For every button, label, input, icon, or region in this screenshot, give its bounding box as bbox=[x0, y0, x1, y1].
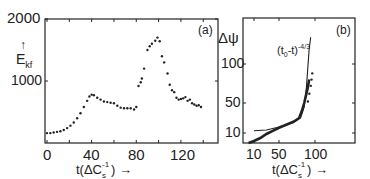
panel-b-ytick-50: 50 bbox=[225, 96, 241, 109]
data-point bbox=[161, 55, 163, 57]
data-point bbox=[198, 104, 200, 106]
panel-b-ytick-10: 10 bbox=[225, 126, 241, 139]
panel-a-frame bbox=[45, 19, 218, 143]
data-point bbox=[180, 98, 182, 100]
panel-a-xtick-0: 0 bbox=[43, 148, 51, 161]
panel-a-ticks bbox=[45, 19, 218, 143]
data-point bbox=[184, 96, 186, 98]
panel-b-annotation-sup: -4/3 bbox=[298, 43, 310, 50]
data-point bbox=[103, 100, 105, 102]
panel-a-y-label: Ekf bbox=[16, 53, 32, 72]
data-point bbox=[307, 100, 309, 102]
data-point bbox=[143, 67, 145, 69]
panel-b-x-label-text: t(ΔC bbox=[272, 162, 298, 177]
data-point bbox=[171, 89, 173, 91]
panel-b-annotation: (t0-t)-4/3 bbox=[277, 40, 310, 61]
data-point bbox=[130, 107, 132, 109]
panel-b-xtick-100: 100 bbox=[304, 148, 327, 161]
panel-b-x-label: t(ΔC-1s) → bbox=[272, 163, 328, 176]
data-point bbox=[148, 45, 150, 47]
data-point bbox=[135, 106, 137, 108]
panel-a-tag: (a) bbox=[198, 24, 213, 37]
data-point bbox=[49, 132, 51, 134]
panel-a-ytick-2000: 2000 bbox=[7, 11, 40, 24]
data-point bbox=[137, 85, 139, 87]
data-point bbox=[119, 106, 121, 108]
data-point bbox=[63, 129, 65, 131]
data-point bbox=[106, 101, 108, 103]
data-point bbox=[177, 98, 179, 100]
data-point bbox=[151, 43, 153, 45]
data-point bbox=[154, 40, 156, 42]
data-point bbox=[52, 131, 54, 133]
panel-a-xtick-120: 120 bbox=[170, 148, 195, 161]
data-point bbox=[133, 108, 135, 110]
data-point bbox=[93, 94, 95, 96]
data-point bbox=[193, 103, 195, 105]
data-point bbox=[88, 95, 90, 97]
data-point bbox=[175, 97, 177, 99]
panel-b-ytick-100: 100 bbox=[221, 57, 244, 70]
data-point bbox=[186, 100, 188, 102]
data-point bbox=[76, 117, 78, 119]
data-point bbox=[83, 106, 85, 108]
data-point bbox=[200, 106, 202, 108]
data-point bbox=[141, 77, 143, 79]
panel-a-y-label-main: E bbox=[16, 51, 25, 67]
data-point bbox=[169, 84, 171, 86]
panel-a-x-label-end: ) → bbox=[111, 162, 132, 177]
data-point bbox=[73, 121, 75, 123]
data-point bbox=[123, 107, 125, 109]
panel-b-y-label: Δψ bbox=[218, 31, 239, 44]
data-point bbox=[311, 72, 313, 74]
panel-b-x-label-sub: s bbox=[298, 169, 302, 179]
panel-a-x-label-sub: s bbox=[102, 169, 106, 179]
panel-a-y-label-sub: kf bbox=[25, 60, 32, 70]
data-point bbox=[59, 130, 61, 132]
panel-a-ytick-1000: 1000 bbox=[11, 74, 42, 87]
data-point bbox=[308, 92, 310, 94]
data-point bbox=[189, 98, 191, 100]
data-point bbox=[195, 105, 197, 107]
data-point bbox=[79, 112, 81, 114]
data-point bbox=[66, 127, 68, 129]
data-point bbox=[99, 98, 101, 100]
data-point bbox=[166, 72, 168, 74]
panel-a-x-label-text: t(ΔC bbox=[76, 162, 102, 177]
panel-a-xtick-40: 40 bbox=[83, 148, 100, 161]
data-point bbox=[156, 36, 158, 38]
data-point bbox=[56, 131, 58, 133]
panel-b-tag: (b) bbox=[336, 24, 351, 37]
panel-b-x-label-end: ) → bbox=[307, 162, 328, 177]
panel-a bbox=[45, 19, 218, 143]
data-point bbox=[109, 102, 111, 104]
data-point bbox=[86, 100, 88, 102]
data-point bbox=[140, 81, 142, 83]
data-point bbox=[90, 93, 92, 95]
data-point bbox=[69, 124, 71, 126]
data-point bbox=[46, 132, 48, 134]
data-point bbox=[191, 102, 193, 104]
data-point bbox=[146, 49, 148, 51]
data-point bbox=[116, 105, 118, 107]
panel-a-x-label: t(ΔC-1s) → bbox=[76, 163, 132, 176]
panel-b-annotation-base: (t bbox=[277, 44, 284, 56]
panel-a-data-points bbox=[46, 36, 202, 134]
panel-b-xtick-50: 50 bbox=[271, 148, 287, 161]
data-point bbox=[163, 61, 165, 63]
panel-b-annotation-mid: -t) bbox=[288, 44, 298, 56]
data-point bbox=[159, 40, 161, 42]
data-point bbox=[310, 78, 312, 80]
data-point bbox=[173, 91, 175, 93]
panel-b-data-curve bbox=[249, 80, 310, 143]
data-point bbox=[96, 97, 98, 99]
panel-b-xtick-10: 10 bbox=[246, 148, 262, 161]
data-point bbox=[182, 97, 184, 99]
data-point bbox=[310, 85, 312, 87]
data-point bbox=[126, 107, 128, 109]
data-point bbox=[113, 102, 115, 104]
panel-a-xtick-80: 80 bbox=[128, 148, 145, 161]
